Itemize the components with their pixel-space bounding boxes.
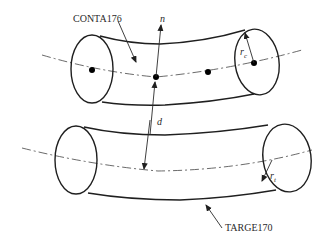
beam-contact-diagram: CONTA176 TARGE170 n d rc rt xyxy=(0,0,324,247)
contact-beam-top-edge xyxy=(100,30,245,44)
target-label-leader xyxy=(206,205,222,228)
target-beam-top-edge xyxy=(84,125,268,135)
contact-node-3 xyxy=(205,69,211,75)
distance-arrow-down xyxy=(144,120,150,169)
contact-beam-centerline xyxy=(42,50,302,77)
normal-arrow xyxy=(156,25,161,77)
contact-beam-right-end xyxy=(231,26,284,97)
contact-element-label: CONTA176 xyxy=(73,13,122,24)
target-beam-bottom-edge xyxy=(88,190,276,200)
target-beam xyxy=(22,121,315,200)
contact-node-1 xyxy=(89,67,95,73)
distance-arrow-up xyxy=(150,82,155,135)
contact-beam-bottom-edge xyxy=(102,94,254,105)
normal-label: n xyxy=(160,13,165,24)
contact-beam xyxy=(42,26,302,105)
contact-radius-label: rc xyxy=(240,46,248,60)
contact-label-leader xyxy=(118,21,136,62)
distance-label: d xyxy=(157,116,163,127)
target-element-label: TARGE170 xyxy=(225,222,273,233)
target-radius-subscript: t xyxy=(274,176,277,184)
target-beam-right-end xyxy=(259,121,316,195)
contact-radius-subscript: c xyxy=(244,52,248,60)
